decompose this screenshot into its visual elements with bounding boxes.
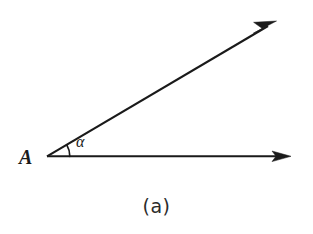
figure-canvas: A α (a)	[0, 0, 313, 234]
figure-caption: (a)	[0, 197, 313, 216]
vertex-label-a: A	[19, 147, 32, 167]
angle-label-alpha: α	[76, 134, 84, 150]
angle-arc	[67, 145, 70, 156]
inclined-ray-arrowhead	[253, 21, 276, 33]
